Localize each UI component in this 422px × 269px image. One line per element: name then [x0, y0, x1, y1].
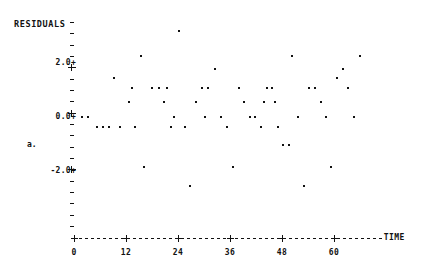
data-point: [249, 116, 251, 118]
x-axis-tick: [71, 238, 78, 239]
y-axis-minor-tick: [70, 192, 74, 193]
x-axis-tick-label: 48: [277, 249, 287, 257]
y-axis-title: RESIDUALS: [14, 20, 65, 29]
data-point: [336, 77, 338, 79]
y-axis-minor-tick: [70, 158, 74, 159]
data-point: [158, 87, 160, 89]
y-axis-minor-tick: [70, 203, 74, 204]
data-point: [291, 55, 293, 57]
y-axis-tick-label: 2.0+: [56, 59, 76, 67]
y-axis-tick-label: -2.0+: [51, 167, 77, 175]
y-axis-minor-tick: [70, 215, 74, 216]
y-axis-minor-tick: [70, 56, 74, 57]
data-point: [359, 55, 361, 57]
residual-scatter-plot: RESIDUALS a. TIME 2.0+0.0+-2.0+ 01224364…: [0, 0, 422, 269]
data-point: [134, 126, 136, 128]
data-point: [195, 101, 197, 103]
data-point: [166, 87, 168, 89]
x-axis-tick: [331, 238, 338, 239]
x-axis-tick-label: 36: [225, 249, 235, 257]
y-axis-minor-tick: [70, 101, 74, 102]
y-axis-tick-label: 0.0+: [56, 113, 76, 121]
data-point: [303, 185, 305, 187]
data-point: [238, 87, 240, 89]
data-point: [96, 126, 98, 128]
y-axis-minor-tick: [70, 135, 74, 136]
data-point: [119, 126, 121, 128]
data-point: [143, 166, 145, 168]
y-axis-minor-tick: [70, 147, 74, 148]
data-point: [140, 55, 142, 57]
data-point: [81, 116, 83, 118]
data-point: [226, 126, 228, 128]
y-axis-major-tick: [68, 67, 76, 68]
y-axis-minor-tick: [70, 22, 74, 23]
data-point: [314, 87, 316, 89]
data-point: [131, 87, 133, 89]
x-axis-tick: [227, 238, 234, 239]
data-point: [277, 126, 279, 128]
data-point: [347, 87, 349, 89]
x-axis-tick: [175, 238, 182, 239]
y-axis-minor-tick: [70, 124, 74, 125]
data-point: [220, 116, 222, 118]
data-point: [108, 126, 110, 128]
data-point: [102, 126, 104, 128]
data-point: [288, 144, 290, 146]
data-point: [87, 116, 89, 118]
data-point: [274, 101, 276, 103]
data-point: [243, 101, 245, 103]
data-point: [297, 116, 299, 118]
data-point: [330, 166, 332, 168]
data-point: [173, 116, 175, 118]
data-point: [263, 101, 265, 103]
data-point: [254, 116, 256, 118]
data-point: [128, 101, 130, 103]
data-point: [282, 144, 284, 146]
data-point: [207, 87, 209, 89]
data-point: [325, 116, 327, 118]
data-point: [271, 87, 273, 89]
data-point: [201, 87, 203, 89]
data-point: [232, 166, 234, 168]
data-point: [308, 87, 310, 89]
y-axis-minor-tick: [70, 90, 74, 91]
y-axis-minor-tick: [70, 181, 74, 182]
x-axis-tick-label: 24: [173, 249, 183, 257]
x-axis-tick: [279, 238, 286, 239]
data-point: [189, 185, 191, 187]
data-point: [113, 77, 115, 79]
y-axis-minor-tick: [70, 33, 74, 34]
data-point: [342, 68, 344, 70]
y-axis-minor-tick: [70, 226, 74, 227]
stray-annotation-label: a.: [27, 141, 37, 149]
data-point: [163, 101, 165, 103]
x-axis-tick-label: 12: [121, 249, 131, 257]
x-axis-tick: [123, 238, 130, 239]
x-axis-tick-label: 60: [329, 249, 339, 257]
data-point: [266, 87, 268, 89]
data-point: [170, 126, 172, 128]
x-axis-tick-label: 0: [71, 249, 76, 257]
data-point: [214, 68, 216, 70]
data-point: [260, 126, 262, 128]
x-axis-title: TIME: [384, 234, 405, 242]
data-point: [320, 101, 322, 103]
data-point: [151, 87, 153, 89]
data-point: [178, 30, 180, 32]
data-point: [184, 126, 186, 128]
y-axis-minor-tick: [70, 45, 74, 46]
data-point: [204, 116, 206, 118]
y-axis-minor-tick: [70, 79, 74, 80]
data-point: [353, 116, 355, 118]
